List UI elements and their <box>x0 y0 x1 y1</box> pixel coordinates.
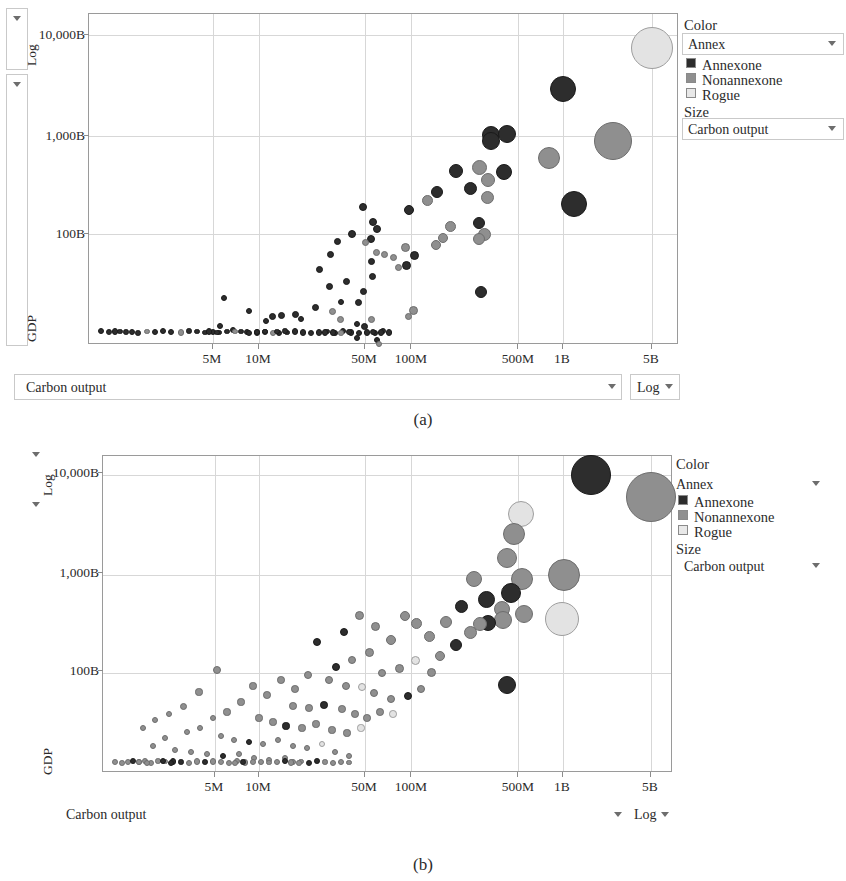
data-point <box>351 710 359 718</box>
data-point <box>186 328 191 333</box>
gridline-y-100b <box>89 234 677 235</box>
data-point <box>386 635 396 645</box>
data-point <box>427 668 436 677</box>
gridline-y-1000b-b <box>103 575 671 576</box>
data-point <box>320 701 328 709</box>
data-point <box>298 316 304 322</box>
data-point <box>346 760 351 765</box>
panel-a-y-field-box[interactable] <box>6 74 28 346</box>
data-point <box>218 759 224 765</box>
data-point <box>346 753 352 759</box>
data-point <box>332 749 338 755</box>
panel-b-x-scale-label[interactable]: Log <box>634 808 657 822</box>
data-point <box>306 760 312 766</box>
data-point <box>450 639 462 651</box>
panel-b-plot-area[interactable] <box>102 455 672 772</box>
data-point <box>117 329 122 334</box>
panel-a: Log GDP 10,000B 1,000B 100B <box>0 0 846 435</box>
data-point <box>144 760 150 766</box>
xtickmark-10m-a <box>258 344 259 349</box>
ytick-100b-a: 100B <box>0 227 85 241</box>
panel-b-color-field-label[interactable]: Annex <box>676 478 713 492</box>
ytick-1000b-b: 1,000B <box>14 566 99 580</box>
data-point <box>369 273 376 280</box>
data-point <box>498 125 516 143</box>
ytick-1000b-a: 1,000B <box>0 129 85 143</box>
xtickmark-500m-b <box>517 772 518 777</box>
data-point <box>184 729 191 736</box>
panel-a-y-field-caret-icon[interactable] <box>13 82 21 87</box>
panel-b-x-field-caret-icon[interactable] <box>614 812 622 817</box>
data-point <box>240 759 246 765</box>
panel-b-y-scale-caret-icon[interactable] <box>32 452 40 457</box>
data-point <box>545 602 579 636</box>
data-point <box>337 316 344 323</box>
panel-b-size-field-label[interactable]: Carbon output <box>684 560 765 574</box>
panel-a-plot-area[interactable] <box>88 13 678 344</box>
xtickmark-100m-b <box>410 772 411 777</box>
data-point <box>594 122 632 160</box>
data-point <box>274 329 279 334</box>
panel-a-x-scale-caret-icon[interactable] <box>665 384 673 389</box>
panel-b-x-scale-caret-icon[interactable] <box>661 812 669 817</box>
data-point <box>282 328 287 333</box>
data-point <box>334 238 341 245</box>
panel-b-x-field-label[interactable]: Carbon output <box>66 808 147 822</box>
data-point <box>223 708 230 715</box>
data-point <box>305 704 313 712</box>
swatch-nonannexone-b <box>678 510 688 520</box>
data-point <box>431 186 443 198</box>
data-point <box>395 264 402 271</box>
data-point <box>395 664 404 673</box>
panel-a-color-field-caret-icon[interactable] <box>828 41 836 46</box>
data-point <box>166 711 173 718</box>
data-point <box>550 76 576 102</box>
data-point <box>296 760 301 765</box>
data-point <box>260 741 267 748</box>
data-point <box>328 726 335 733</box>
panel-a-size-field-caret-icon[interactable] <box>828 126 836 131</box>
panel-b-size-field-caret-icon[interactable] <box>812 563 820 568</box>
data-point <box>338 330 343 335</box>
data-point <box>338 759 344 765</box>
data-point <box>322 759 327 764</box>
panel-a-x-field-caret-icon[interactable] <box>608 384 616 389</box>
gridline-x-10m-b <box>259 456 260 771</box>
panel-b: Log GDP 10,000B 1,000B 100B <box>0 440 846 881</box>
data-point <box>152 329 158 335</box>
data-point <box>358 683 366 691</box>
legend-label-rogue-b: Rogue <box>694 525 732 540</box>
data-point <box>246 739 253 746</box>
panel-b-color-field-caret-icon[interactable] <box>812 481 820 486</box>
panel-a-y-scale-caret-icon[interactable] <box>13 16 21 21</box>
gridline-x-100m-b <box>411 456 412 771</box>
data-point <box>381 251 388 258</box>
xtick-5b-b: 5B <box>626 780 674 794</box>
data-point <box>312 720 319 727</box>
data-point <box>269 313 276 320</box>
data-point <box>263 318 269 324</box>
data-point <box>325 676 333 684</box>
data-point <box>340 628 348 636</box>
data-point <box>308 330 314 336</box>
data-point <box>277 676 285 684</box>
panel-b-y-field-caret-icon[interactable] <box>32 502 40 507</box>
data-point <box>464 626 477 639</box>
data-point <box>206 328 212 334</box>
xtick-5b-a: 5B <box>627 352 675 366</box>
data-point <box>232 329 238 335</box>
data-point <box>289 702 297 710</box>
panel-b-size-title: Size <box>676 542 701 557</box>
ytick-100b-b: 100B <box>14 664 99 678</box>
data-point <box>338 705 346 713</box>
ytickmark-100b-b <box>98 670 103 671</box>
data-point <box>404 205 414 215</box>
data-point <box>269 718 276 725</box>
data-point <box>360 288 367 295</box>
data-point <box>481 173 495 187</box>
data-point <box>402 261 411 270</box>
xtickmark-10m-b <box>258 772 259 777</box>
data-point <box>129 329 135 335</box>
xtick-1b-b: 1B <box>538 780 586 794</box>
data-point <box>571 455 611 495</box>
